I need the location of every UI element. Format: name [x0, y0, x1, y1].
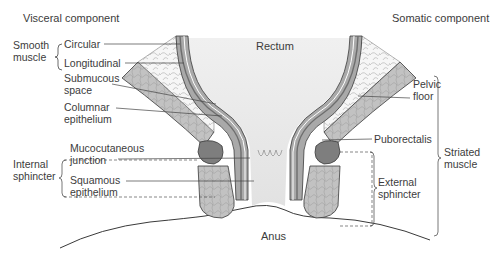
smooth-muscle-brace [55, 44, 62, 70]
circular-label: Circular [64, 38, 100, 50]
squamous-epithelium-label: Squamous epithelium [70, 174, 120, 198]
external-sphincter-label: External sphincter [378, 176, 421, 200]
rectum-label: Rectum [256, 40, 294, 52]
smooth-muscle-group-label: Smooth muscle [13, 39, 49, 63]
pelvic-floor-label: Pelvic floor [413, 78, 441, 102]
external-sphincter-brace [370, 152, 377, 226]
submucous-space-label: Submucous space [64, 72, 119, 96]
right-external-sphincter [304, 166, 340, 218]
somatic-component-header: Somatic component [392, 12, 489, 24]
mucocutaneous-junction-label: Mucocutaneous junction [70, 142, 144, 166]
left-external-sphincter [198, 166, 234, 218]
anorectal-anatomy-diagram: Visceral component Somatic component Rec… [0, 0, 492, 256]
longitudinal-label: Longitudinal [64, 57, 121, 69]
right-puborectalis [315, 141, 340, 164]
visceral-component-header: Visceral component [23, 12, 119, 24]
external-sphincter-box [340, 152, 372, 226]
striated-muscle-label: Striated muscle [444, 146, 480, 170]
internal-sphincter-brace [59, 160, 66, 197]
puborectalis-label: Puborectalis [374, 133, 432, 145]
skin-outline [60, 205, 430, 248]
internal-sphincter-group-label: Internal sphincter [13, 158, 56, 182]
columnar-epithelium-label: Columnar epithelium [64, 101, 112, 125]
left-puborectalis [198, 141, 223, 164]
anus-label: Anus [261, 230, 286, 242]
